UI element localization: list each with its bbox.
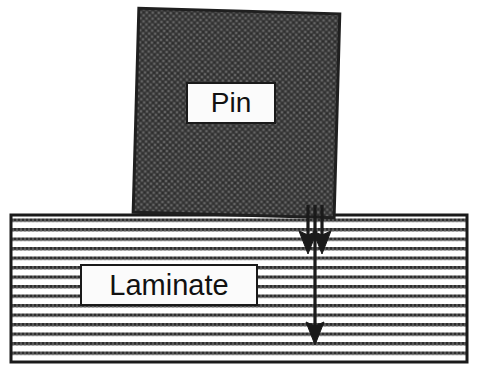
pin-label-text: Pin bbox=[211, 89, 251, 117]
pin-label-box: Pin bbox=[186, 82, 276, 124]
pin-laminate-diagram: Pin Laminate bbox=[0, 0, 478, 381]
laminate-label-box: Laminate bbox=[80, 264, 258, 306]
diagram-canvas bbox=[0, 0, 478, 381]
laminate-label-text: Laminate bbox=[109, 271, 228, 300]
